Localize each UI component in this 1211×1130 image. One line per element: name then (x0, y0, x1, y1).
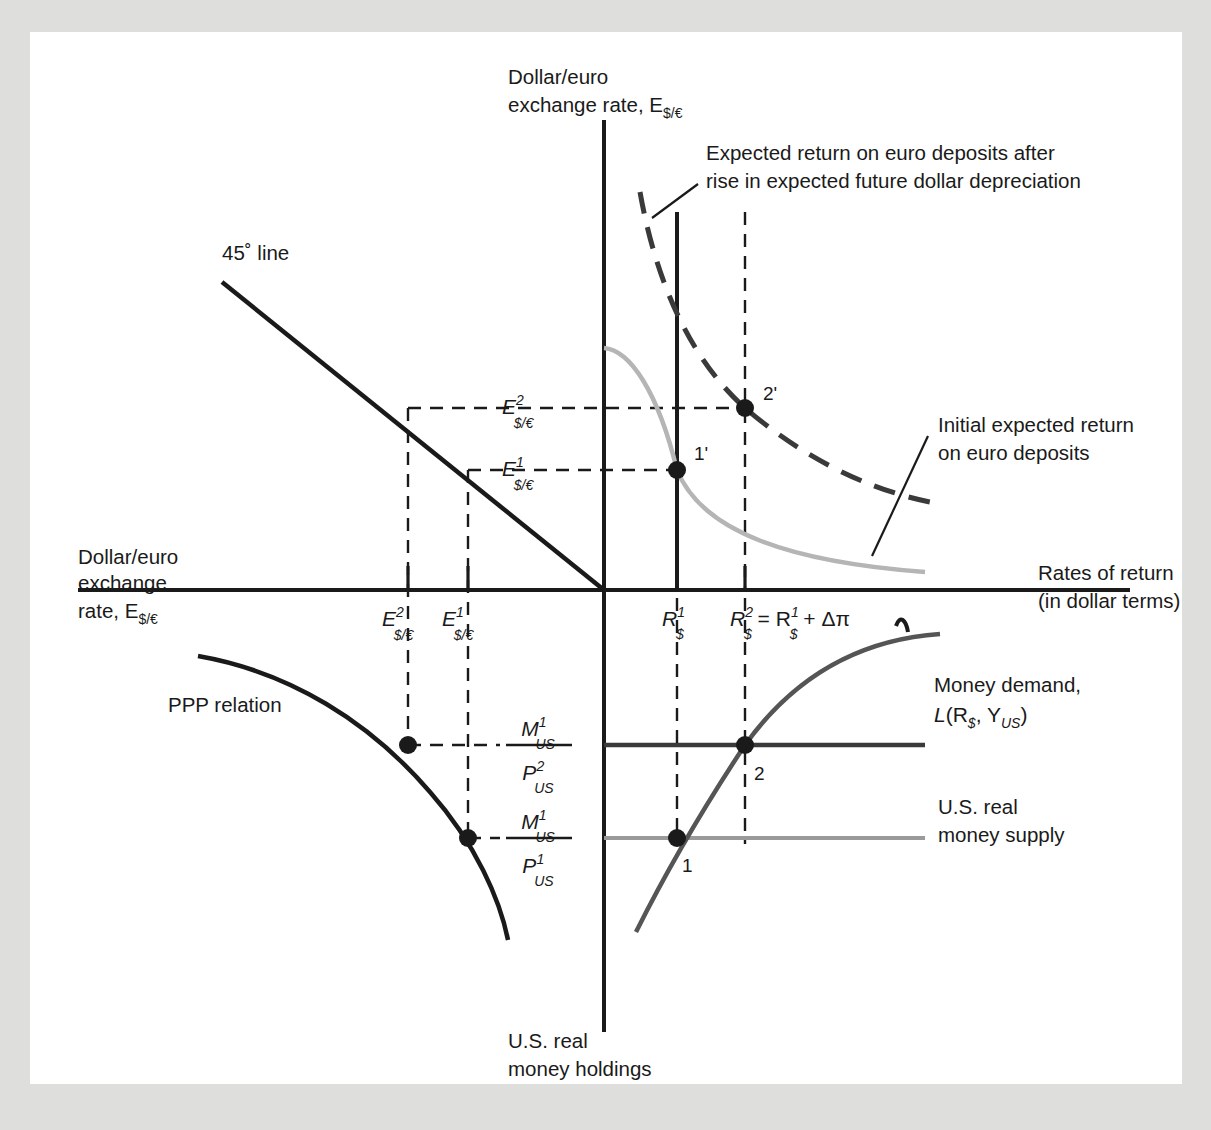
real-money-supply-annotation: U.S. real money supply (938, 795, 1065, 846)
point-2-prime-label: 2' (763, 383, 777, 404)
point-1-prime-marker (668, 461, 686, 479)
point-2-marker (736, 736, 754, 754)
ppp-points (399, 736, 477, 847)
left-axis-label-sub: $/€ (138, 611, 158, 627)
initial-return-label-line1: Initial expected return (938, 413, 1134, 436)
E2-axis-label: E2$/€ (502, 392, 534, 431)
point-1-marker (668, 829, 686, 847)
shifted-return-label-line2: rise in expected future dollar depreciat… (706, 169, 1081, 192)
left-axis-label-line1: Dollar/euro (78, 545, 178, 568)
R2-equation-label: R2$ = R1$ + Δπ (730, 604, 850, 642)
left-axis-label-line2: exchange (78, 571, 167, 594)
E1-axis-label: E1$/€ (502, 454, 534, 493)
forty-five-degree-line (222, 282, 604, 590)
initial-return-leader-line (872, 436, 928, 556)
svg-text:P1US: P1US (522, 851, 554, 889)
left-horizontal-axis-label: Dollar/euro exchange rate, E$/€ (78, 545, 178, 627)
lower-right-equilibrium-points: 1 2 (668, 736, 765, 876)
E1-horizontal-label: E1$/€ (442, 604, 474, 643)
money-demand-label-line2: L(R$, YUS) (934, 703, 1027, 731)
rates-of-return-tick-labels: R1$ R2$ = R1$ + Δπ (662, 604, 850, 642)
forty-five-degree-line-group: 45˚ line (222, 241, 604, 590)
real-money-supply-label-line2: money supply (938, 823, 1065, 846)
point-2-prime-marker (736, 399, 754, 417)
top-axis-label-line2: exchange rate, E (508, 93, 663, 116)
forty-five-line-label: 45˚ line (222, 241, 289, 264)
money-demand-label-line1: Money demand, (934, 673, 1081, 696)
top-axis-label-line1: Dollar/euro (508, 65, 608, 88)
top-vertical-axis-label: Dollar/euro exchange rate, E$/€ (508, 65, 683, 121)
svg-text:exchange rate, E$/€: exchange rate, E$/€ (508, 93, 683, 121)
point-1-label: 1 (682, 855, 693, 876)
upper-right-equilibrium-points: 1' 2' (668, 383, 777, 479)
bottom-axis-label-line1: U.S. real (508, 1029, 588, 1052)
M1-over-P1-label: M1US P1US (506, 807, 572, 889)
point-2-label: 2 (754, 763, 765, 784)
initial-return-label-line2: on euro deposits (938, 441, 1090, 464)
shifted-return-label-line1: Expected return on euro deposits after (706, 141, 1055, 164)
initial-expected-return-curve (604, 348, 925, 572)
E2-horizontal-label: E2$/€ (382, 604, 414, 643)
svg-text:M1US: M1US (521, 714, 555, 752)
real-money-supply-label-line1: U.S. real (938, 795, 1018, 818)
economics-four-quadrant-diagram: Dollar/euro exchange rate, E$/€ Dollar/e… (30, 32, 1182, 1084)
right-horizontal-axis-label: Rates of return (in dollar terms) (1038, 561, 1180, 612)
point-1-prime-label: 1' (694, 443, 708, 464)
svg-text:P2US: P2US (522, 758, 554, 796)
M1-over-P2-label: M1US P2US (506, 714, 572, 796)
figure-page: Dollar/euro exchange rate, E$/€ Dollar/e… (0, 0, 1211, 1130)
shifted-return-annotation: Expected return on euro deposits after r… (652, 141, 1081, 218)
shifted-expected-return-curve (640, 192, 930, 502)
horizontal-exchange-rate-tick-labels: E2$/€ E1$/€ (382, 604, 474, 643)
left-axis-label-line3: rate, E (78, 599, 138, 622)
top-axis-label-sub: $/€ (663, 105, 683, 121)
right-axis-label-line1: Rates of return (1038, 561, 1174, 584)
right-axis-label-line2: (in dollar terms) (1038, 589, 1180, 612)
R1-label: R1$ (662, 604, 685, 642)
money-demand-pointer-hook (896, 619, 908, 632)
svg-text:rate, E$/€: rate, E$/€ (78, 599, 158, 627)
initial-return-annotation: Initial expected return on euro deposits (872, 413, 1134, 556)
bottom-vertical-axis-label: U.S. real money holdings (508, 1029, 652, 1080)
lower-right-reference-lines (677, 598, 745, 844)
ppp-relation-label: PPP relation (168, 693, 282, 716)
figure-card: Dollar/euro exchange rate, E$/€ Dollar/e… (30, 32, 1182, 1084)
money-demand-curve (636, 634, 940, 932)
svg-text:M1US: M1US (521, 807, 555, 845)
real-money-balance-labels: M1US P2US M1US P1US (506, 714, 572, 889)
bottom-axis-label-line2: money holdings (508, 1057, 652, 1080)
